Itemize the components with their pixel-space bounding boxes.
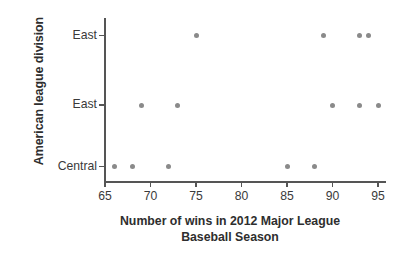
data-point [357,103,362,108]
x-axis-tick-label: 85 [267,189,307,203]
y-axis-tick-label: East [33,97,97,113]
data-point [366,33,371,38]
x-axis-tick-label: 65 [85,189,125,203]
y-axis-tick-label-text: Central [35,159,97,173]
data-point [376,103,381,108]
x-axis-tick [104,181,106,187]
x-axis-title: Number of wins in 2012 Major League Base… [60,213,400,245]
y-axis-line [104,18,106,181]
data-point [166,164,171,169]
x-axis-tick-label: 90 [313,189,353,203]
x-axis-tick [195,181,197,187]
data-point [285,164,290,169]
x-axis-tick-label: 95 [358,189,398,203]
y-axis-tick [99,35,105,37]
x-axis-tick [150,181,152,187]
x-axis-tick-label: 80 [222,189,262,203]
scatter-plot-figure: American league division CentralEastEast… [0,0,407,255]
y-axis-tick-label: Central [33,159,97,175]
data-point [321,33,326,38]
plot-area: CentralEastEast 65707580859095 [0,0,407,210]
data-point [175,103,180,108]
data-point [194,33,199,38]
y-axis-tick-label-text: East [35,97,97,111]
x-axis-tick [332,181,334,187]
data-point [139,103,144,108]
x-axis-tick [377,181,379,187]
data-point [357,33,362,38]
x-axis-tick [241,181,243,187]
data-point [330,103,335,108]
y-axis-tick [99,104,105,106]
x-axis-tick-label: 70 [131,189,171,203]
y-axis-tick-label-text: East [35,28,97,42]
x-axis-title-line-1: Number of wins in 2012 Major League [120,214,340,228]
y-axis-tick-label: East [33,28,97,44]
x-axis-line [104,181,386,183]
data-point [130,164,135,169]
x-axis-tick-label: 75 [176,189,216,203]
data-point [112,164,117,169]
y-axis-tick [99,166,105,168]
x-axis-tick [286,181,288,187]
data-point [312,164,317,169]
x-axis-title-line-2: Baseball Season [60,229,400,245]
